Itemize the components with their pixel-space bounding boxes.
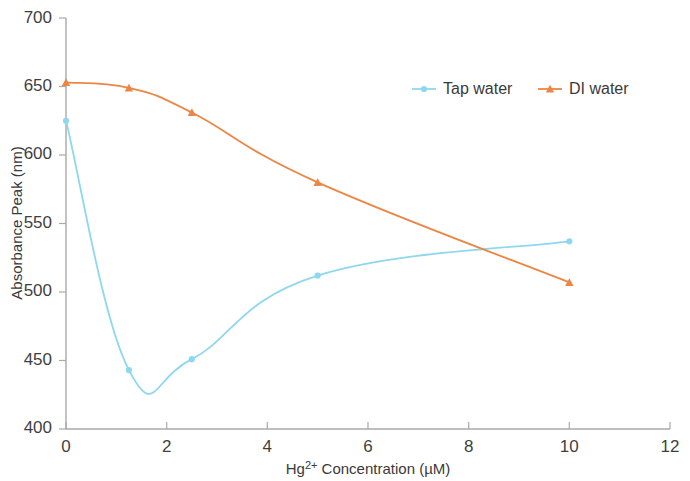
legend-item-di-water[interactable]: DI water	[538, 80, 629, 97]
x-tick-label: 4	[263, 437, 272, 456]
x-tick-label: 8	[464, 437, 473, 456]
y-tick-label: 400	[24, 418, 52, 437]
series-di-water	[62, 78, 574, 286]
y-axis-title: Absorbance Peak (nm)	[8, 146, 25, 299]
y-tick-marks	[59, 18, 66, 429]
y-tick-label: 650	[24, 76, 52, 95]
data-point-marker	[189, 356, 195, 362]
chart-legend: Tap waterDI water	[412, 80, 629, 97]
legend-label: Tap water	[443, 80, 513, 97]
x-tick-marks	[66, 422, 670, 429]
y-tick-label: 700	[24, 8, 52, 27]
y-tick-label: 600	[24, 144, 52, 163]
data-point-marker	[63, 118, 69, 124]
legend-swatch-marker	[421, 86, 427, 92]
x-tick-label: 10	[560, 437, 579, 456]
series-line	[66, 121, 569, 394]
x-tick-label: 6	[363, 437, 372, 456]
x-tick-label: 2	[162, 437, 171, 456]
data-point-marker	[566, 238, 572, 244]
data-point-marker	[188, 108, 196, 116]
series-tap-water	[63, 118, 573, 394]
chart-container: 700 650 600 550 500 450 400 0 2 4 6 8 10…	[0, 0, 690, 481]
legend-item-tap-water[interactable]: Tap water	[412, 80, 513, 97]
y-tick-label: 550	[24, 213, 52, 232]
x-tick-label: 12	[661, 437, 680, 456]
y-tick-label: 500	[24, 281, 52, 300]
data-point-marker	[315, 272, 321, 278]
x-axis-title: Hg2+ Concentration (µM)	[286, 459, 451, 477]
y-tick-labels: 700 650 600 550 500 450 400	[24, 8, 52, 437]
legend-label: DI water	[569, 80, 629, 97]
data-point-marker	[313, 178, 321, 186]
series-layer	[62, 78, 574, 394]
x-tick-label: 0	[61, 437, 70, 456]
data-point-marker	[126, 367, 132, 373]
y-tick-label: 450	[24, 350, 52, 369]
x-tick-labels: 0 2 4 6 8 10 12	[61, 437, 679, 456]
absorbance-peak-line-chart: 700 650 600 550 500 450 400 0 2 4 6 8 10…	[0, 0, 690, 481]
